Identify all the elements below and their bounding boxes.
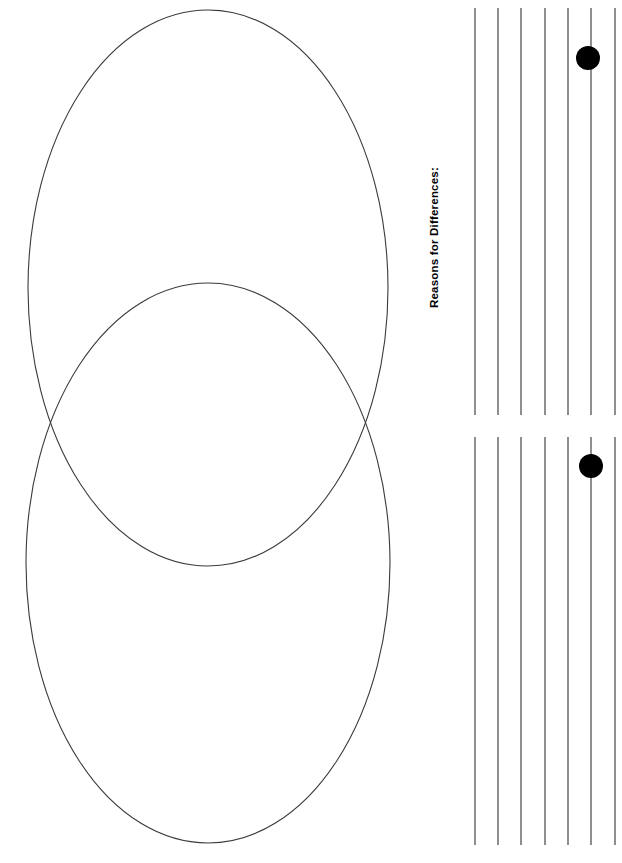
- venn-lower-circle[interactable]: [26, 283, 390, 843]
- worksheet-page: Reasons for Differences: Reasons for Sim…: [0, 0, 622, 863]
- ruled-lines-similarities[interactable]: [420, 430, 622, 863]
- label-reasons-for-differences: Reasons for Differences:: [428, 68, 440, 308]
- bullet-dot[interactable]: [579, 454, 603, 478]
- section-reasons-for-differences: Reasons for Differences:: [420, 0, 622, 425]
- ruled-lines-differences[interactable]: [420, 0, 622, 425]
- venn-upper-circle[interactable]: [28, 10, 388, 566]
- section-reasons-for-similarities: Reasons for Similarities:: [420, 430, 622, 863]
- venn-diagram: [0, 0, 420, 863]
- notes-area: Reasons for Differences: Reasons for Sim…: [420, 0, 622, 863]
- venn-diagram-area: [0, 0, 420, 863]
- bullet-dot[interactable]: [576, 46, 600, 70]
